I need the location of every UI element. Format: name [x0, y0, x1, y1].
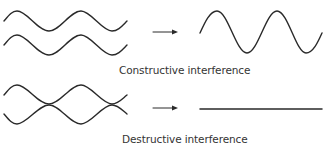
destructive-input-wave-a [4, 85, 127, 104]
right-arrow-icon [153, 30, 178, 35]
constructive-input-wave-a [4, 11, 127, 31]
destructive-label: Destructive interference [122, 133, 248, 145]
constructive-result-wave [200, 11, 322, 53]
destructive-panel [4, 85, 322, 124]
interference-diagram: Constructive interference Destructive in… [0, 0, 330, 147]
destructive-input-wave-b [4, 105, 127, 124]
right-arrow-icon [153, 106, 178, 111]
constructive-input-wave-b [4, 35, 127, 55]
constructive-panel [4, 11, 322, 55]
constructive-label: Constructive interference [119, 64, 250, 76]
